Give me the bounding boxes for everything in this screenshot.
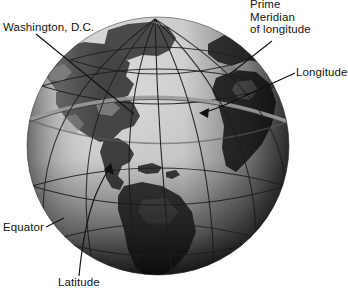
globe-figure <box>0 0 348 295</box>
label-equator: Equator <box>3 221 44 234</box>
label-prime-meridian-line2: Meridian <box>250 11 311 24</box>
label-prime-meridian-line1: Prime <box>250 0 311 11</box>
label-latitude: Latitude <box>58 276 100 289</box>
label-longitude: Longitude <box>296 66 347 79</box>
label-prime-meridian-line3: of longitude <box>250 23 311 36</box>
label-washington-dc: Washington, D.C. <box>3 21 94 34</box>
label-prime-meridian: Prime Meridian of longitude <box>250 0 311 36</box>
